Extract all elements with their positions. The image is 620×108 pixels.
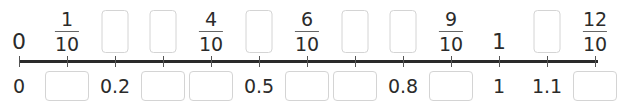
fraction: 910 bbox=[439, 9, 463, 54]
fraction: 1210 bbox=[583, 9, 607, 54]
bottom-slot bbox=[573, 68, 617, 104]
fraction-label: 1210 bbox=[583, 6, 607, 56]
decimal-answer-box[interactable] bbox=[45, 71, 89, 101]
fraction-answer-box[interactable] bbox=[534, 10, 561, 53]
whole-number-label: 0 bbox=[12, 28, 26, 54]
fraction-bar bbox=[295, 31, 319, 32]
fraction-bar bbox=[583, 31, 607, 32]
decimal-answer-box[interactable] bbox=[285, 71, 329, 101]
top-slot bbox=[246, 6, 273, 56]
decimal-label: 1 bbox=[493, 68, 505, 104]
fraction: 110 bbox=[55, 9, 79, 54]
tick-mark bbox=[67, 56, 68, 67]
bottom-slot bbox=[45, 68, 89, 104]
whole-number-label: 1 bbox=[492, 28, 506, 54]
fraction-answer-box[interactable] bbox=[390, 10, 417, 53]
number-line-axis bbox=[19, 60, 598, 63]
decimal-answer-box[interactable] bbox=[189, 71, 233, 101]
fraction-label: 110 bbox=[55, 6, 79, 56]
fraction-numerator: 9 bbox=[445, 9, 457, 30]
fraction-denominator: 10 bbox=[199, 34, 223, 54]
tick-mark bbox=[19, 56, 20, 67]
tick-mark bbox=[451, 56, 452, 67]
top-slot bbox=[150, 6, 177, 56]
top-slot bbox=[342, 6, 369, 56]
fraction-numerator: 4 bbox=[205, 9, 217, 30]
bottom-slot bbox=[333, 68, 377, 104]
top-slot bbox=[390, 6, 417, 56]
bottom-slot bbox=[141, 68, 185, 104]
fraction-answer-box[interactable] bbox=[246, 10, 273, 53]
decimal-answer-box[interactable] bbox=[429, 71, 473, 101]
fraction-label: 910 bbox=[439, 6, 463, 56]
decimal-label: 0.2 bbox=[100, 68, 130, 104]
tick-mark bbox=[163, 56, 164, 67]
decimal-label: 0.5 bbox=[244, 68, 274, 104]
decimal-label: 1.1 bbox=[532, 68, 562, 104]
tick-mark bbox=[595, 56, 596, 67]
fraction-denominator: 10 bbox=[439, 34, 463, 54]
fraction-answer-box[interactable] bbox=[342, 10, 369, 53]
fraction: 410 bbox=[199, 9, 223, 54]
fraction-bar bbox=[55, 31, 79, 32]
top-slot bbox=[534, 6, 561, 56]
bottom-slot bbox=[285, 68, 329, 104]
fraction-label: 410 bbox=[199, 6, 223, 56]
bottom-slot bbox=[189, 68, 233, 104]
fraction-numerator: 12 bbox=[583, 9, 607, 30]
fraction-denominator: 10 bbox=[295, 34, 319, 54]
top-slot bbox=[102, 6, 129, 56]
bottom-slot bbox=[429, 68, 473, 104]
fraction-numerator: 6 bbox=[301, 9, 313, 30]
fraction-label: 610 bbox=[295, 6, 319, 56]
decimal-answer-box[interactable] bbox=[333, 71, 377, 101]
decimal-answer-box[interactable] bbox=[573, 71, 617, 101]
tick-mark bbox=[355, 56, 356, 67]
fraction-denominator: 10 bbox=[583, 34, 607, 54]
decimal-label: 0.8 bbox=[388, 68, 418, 104]
tick-mark bbox=[115, 56, 116, 67]
decimal-label: 0 bbox=[13, 68, 25, 104]
tick-mark bbox=[259, 56, 260, 67]
decimal-answer-box[interactable] bbox=[141, 71, 185, 101]
tick-mark bbox=[499, 56, 500, 67]
fraction-bar bbox=[439, 31, 463, 32]
fraction-denominator: 10 bbox=[55, 34, 79, 54]
fraction-answer-box[interactable] bbox=[102, 10, 129, 53]
tick-mark bbox=[307, 56, 308, 67]
fraction-answer-box[interactable] bbox=[150, 10, 177, 53]
tick-mark bbox=[211, 56, 212, 67]
tick-mark bbox=[547, 56, 548, 67]
fraction-numerator: 1 bbox=[61, 9, 73, 30]
tick-mark bbox=[403, 56, 404, 67]
fraction-bar bbox=[199, 31, 223, 32]
fraction: 610 bbox=[295, 9, 319, 54]
